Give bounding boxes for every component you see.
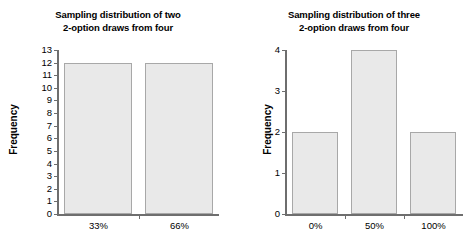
y-tick-mark xyxy=(54,88,58,89)
y-tick-mark xyxy=(282,214,286,215)
x-tick-mark xyxy=(345,215,346,219)
plot-area-left: 131211109876543210 33%66% xyxy=(0,0,236,243)
y-tick-label: 5 xyxy=(24,146,52,156)
y-tick-label: 3 xyxy=(24,171,52,181)
x-tick-mark xyxy=(404,215,405,219)
chart-panel-left: Sampling distribution of two 2-option dr… xyxy=(0,0,236,243)
y-tick-label: 13 xyxy=(24,45,52,55)
y-tick-mark xyxy=(54,113,58,114)
bar xyxy=(410,132,456,214)
y-tick-mark xyxy=(54,151,58,152)
y-tick-mark xyxy=(54,63,58,64)
y-tick-label: 1 xyxy=(252,168,280,178)
y-tick-mark xyxy=(54,189,58,190)
y-tick-label: 11 xyxy=(24,70,52,80)
x-tick-label: 66% xyxy=(139,221,220,231)
x-tick-mark xyxy=(139,215,140,219)
y-tick-label: 3 xyxy=(252,86,280,96)
bar xyxy=(351,50,397,214)
x-tick-label: 100% xyxy=(404,221,463,231)
y-tick-mark xyxy=(54,164,58,165)
y-tick-mark xyxy=(282,50,286,51)
y-tick-mark xyxy=(54,100,58,101)
y-tick-mark xyxy=(54,126,58,127)
y-tick-label: 4 xyxy=(252,45,280,55)
y-tick-label: 2 xyxy=(24,184,52,194)
bar xyxy=(292,132,338,214)
bar xyxy=(64,63,132,214)
x-tick-label: 0% xyxy=(286,221,345,231)
y-tick-mark xyxy=(54,201,58,202)
y-tick-mark xyxy=(54,176,58,177)
x-tick-label: 50% xyxy=(345,221,404,231)
y-tick-label: 0 xyxy=(252,209,280,219)
y-tick-label: 8 xyxy=(24,108,52,118)
x-tick-label: 33% xyxy=(58,221,139,231)
chart-panel-right: Sampling distribution of three 2-option … xyxy=(236,0,472,243)
bar xyxy=(145,63,213,214)
y-tick-label: 7 xyxy=(24,121,52,131)
y-tick-mark xyxy=(54,75,58,76)
figure-two-bar-charts: Sampling distribution of two 2-option dr… xyxy=(0,0,472,243)
y-tick-mark xyxy=(282,173,286,174)
x-axis-line-left xyxy=(57,214,219,216)
y-tick-label: 9 xyxy=(24,95,52,105)
y-tick-mark xyxy=(54,214,58,215)
y-tick-label: 10 xyxy=(24,83,52,93)
y-tick-mark xyxy=(54,138,58,139)
y-tick-mark xyxy=(54,50,58,51)
plot-area-right: 43210 0%50%100% xyxy=(236,0,472,243)
y-tick-mark xyxy=(282,132,286,133)
y-tick-label: 2 xyxy=(252,127,280,137)
y-tick-mark xyxy=(282,91,286,92)
y-tick-label: 6 xyxy=(24,133,52,143)
y-tick-label: 0 xyxy=(24,209,52,219)
y-tick-label: 1 xyxy=(24,196,52,206)
x-axis-line-right xyxy=(285,214,463,216)
y-tick-label: 12 xyxy=(24,58,52,68)
y-tick-label: 4 xyxy=(24,159,52,169)
